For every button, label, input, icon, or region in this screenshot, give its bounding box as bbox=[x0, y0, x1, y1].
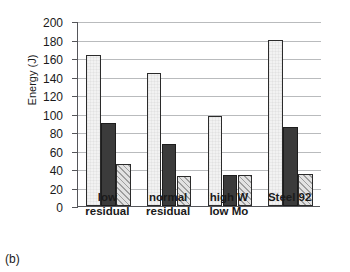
x-axis-category-line: normal bbox=[149, 191, 187, 203]
y-axis-tick-label: 180 bbox=[43, 36, 63, 48]
x-axis-category-label: high Wlow Mo bbox=[199, 190, 260, 218]
x-axis-category-label: Steel 92 bbox=[259, 190, 320, 204]
x-axis-category-label: lowresidual bbox=[77, 190, 138, 218]
figure-caption: (b) bbox=[5, 252, 20, 266]
y-axis-title: Energy (J) bbox=[26, 20, 38, 140]
y-axis-tick-label: 20 bbox=[50, 184, 63, 196]
bar bbox=[147, 73, 162, 206]
x-axis-category-label: normalresidual bbox=[138, 190, 199, 218]
plot-area: 020406080100120140160180200 bbox=[77, 22, 320, 207]
y-axis-tick-label: 160 bbox=[43, 54, 63, 66]
y-axis-tick-label: 40 bbox=[50, 165, 63, 177]
x-axis-category-line: low bbox=[98, 191, 117, 203]
y-axis-tick-label: 80 bbox=[50, 128, 63, 140]
x-axis-category-line: high W bbox=[210, 191, 248, 203]
y-axis-tick-label: 140 bbox=[43, 73, 63, 85]
x-axis-category-line: residual bbox=[138, 204, 199, 218]
y-axis-tick-label: 0 bbox=[56, 202, 63, 214]
bar-group bbox=[260, 21, 321, 206]
bar bbox=[86, 55, 101, 206]
bar-chart-figure: Energy (J) 020406080100120140160180200 l… bbox=[0, 0, 350, 272]
bar bbox=[268, 40, 283, 207]
bar-group bbox=[200, 21, 261, 206]
y-axis-tick-label: 60 bbox=[50, 147, 63, 159]
x-axis-category-line: residual bbox=[77, 204, 138, 218]
x-axis-category-line: low Mo bbox=[199, 204, 260, 218]
bar-group bbox=[139, 21, 200, 206]
x-axis-category-line: Steel 92 bbox=[268, 191, 311, 203]
bar-group bbox=[78, 21, 139, 206]
y-axis-tick-label: 100 bbox=[43, 110, 63, 122]
y-axis-tick-label: 120 bbox=[43, 91, 63, 103]
y-axis-tick-label: 200 bbox=[43, 17, 63, 29]
